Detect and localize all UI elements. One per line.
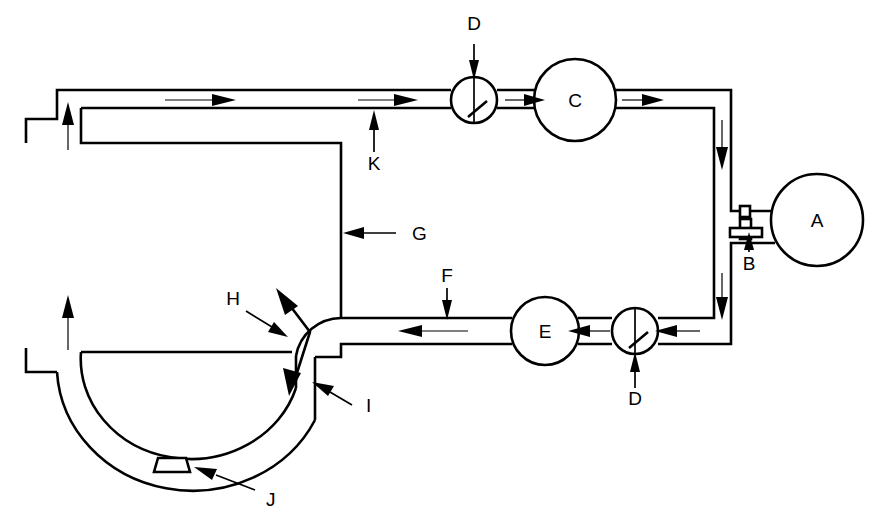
pump-chamber-C: C bbox=[534, 59, 616, 141]
jacketed-bowl bbox=[57, 318, 341, 491]
component-label-D-lower: D bbox=[628, 388, 642, 409]
component-label-G: G bbox=[412, 223, 427, 244]
flow-arrow-up-left-top bbox=[62, 102, 74, 150]
component-label-A: A bbox=[811, 210, 824, 231]
drain-port-J bbox=[154, 458, 190, 472]
component-label-F: F bbox=[441, 265, 453, 286]
label-leader-K: K bbox=[368, 110, 381, 174]
flow-arrow-down-right-1 bbox=[716, 120, 728, 170]
flow-arrow-left-bottom-3 bbox=[398, 325, 468, 337]
component-label-I: I bbox=[366, 395, 371, 416]
flow-arrow-right-top-2 bbox=[358, 94, 418, 106]
label-leader-G: G bbox=[343, 223, 427, 244]
label-leader-D-lower: D bbox=[628, 352, 642, 409]
component-label-D-upper: D bbox=[467, 13, 481, 34]
component-label-C: C bbox=[568, 90, 582, 111]
reservoir-tank-A: A bbox=[771, 174, 863, 266]
check-valve-D-lower bbox=[612, 308, 658, 354]
schematic-drawing: C E A bbox=[0, 0, 881, 531]
label-leader-I: I bbox=[312, 382, 371, 416]
component-label-K: K bbox=[368, 153, 381, 174]
flow-arrow-right-out-C bbox=[622, 94, 664, 106]
flow-arrow-bidirectional-H bbox=[276, 288, 310, 396]
flow-arrow-left-bottom-1 bbox=[655, 325, 700, 337]
flow-arrow-down-right-2 bbox=[716, 273, 728, 320]
check-valve-D-upper bbox=[451, 77, 497, 123]
component-label-E: E bbox=[539, 321, 552, 342]
flow-arrow-right-top-1 bbox=[165, 94, 236, 106]
flow-arrow-up-left-bottom bbox=[62, 295, 74, 350]
circuit-inner-wall bbox=[81, 108, 714, 318]
component-label-J: J bbox=[266, 489, 276, 510]
diagram-canvas: C E A bbox=[0, 0, 881, 531]
component-label-B: B bbox=[743, 253, 756, 274]
component-label-H: H bbox=[226, 288, 240, 309]
label-leader-D-upper: D bbox=[467, 13, 481, 80]
label-leader-F: F bbox=[441, 265, 453, 320]
